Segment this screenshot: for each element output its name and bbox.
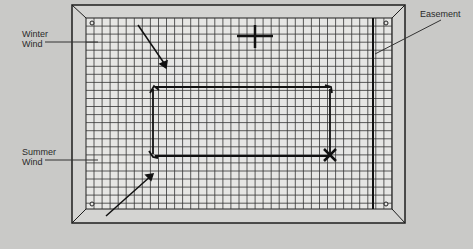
site-plan-diagram (0, 0, 473, 249)
easement-label: Easement (420, 9, 461, 19)
summer-wind-label-line2: Wind (22, 157, 56, 167)
winter-wind-label-line2: Wind (22, 39, 48, 49)
summer-wind-label: Summer Wind (22, 147, 56, 167)
winter-wind-label-line1: Winter (22, 29, 48, 39)
summer-wind-label-line1: Summer (22, 147, 56, 157)
winter-wind-label: Winter Wind (22, 29, 48, 49)
frame (72, 5, 405, 223)
